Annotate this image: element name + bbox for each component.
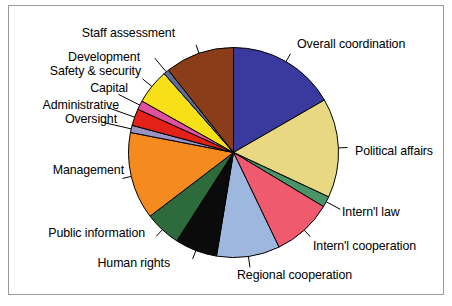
pie-label-human-rights: Human rights bbox=[98, 256, 171, 270]
pie-label-capital: Capital bbox=[90, 81, 128, 95]
chart-frame: Overall coordination Political affairs I… bbox=[0, 0, 452, 306]
leader-line bbox=[156, 230, 162, 237]
pie-label-regional-cooperation: Regional cooperation bbox=[237, 268, 352, 282]
pie-label-internl-cooperation: Intern'l cooperation bbox=[313, 239, 416, 253]
leader-line bbox=[118, 94, 139, 105]
pie-label-development: Development bbox=[68, 50, 140, 64]
pie-label-management: Management bbox=[53, 163, 124, 177]
leader-line bbox=[304, 230, 310, 237]
pie-label-oversight: Oversight bbox=[65, 112, 117, 126]
pie-label-political-affairs: Political affairs bbox=[355, 144, 433, 158]
pie-label-staff-assessment: Staff assessment bbox=[82, 26, 175, 40]
leader-line bbox=[143, 79, 152, 87]
leader-line bbox=[248, 256, 250, 267]
leader-line bbox=[196, 45, 199, 54]
pie-label-overall-coordination: Overall coordination bbox=[297, 37, 405, 51]
pie-label-public-information: Public information bbox=[48, 226, 145, 240]
leader-line bbox=[286, 54, 291, 62]
pie-label-safety-security: Safety & security bbox=[50, 64, 141, 78]
pie-label-administrative: Administrative bbox=[43, 98, 119, 112]
pie-slice-group bbox=[129, 48, 339, 258]
leader-line bbox=[193, 251, 196, 259]
leader-line bbox=[155, 58, 167, 72]
leader-line bbox=[326, 202, 340, 210]
pie-label-internl-law: Intern'l law bbox=[342, 205, 400, 219]
